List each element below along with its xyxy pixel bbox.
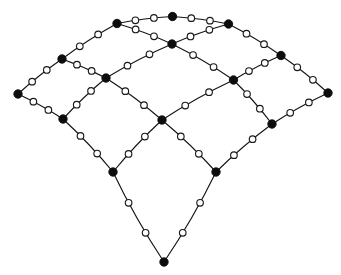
hollow-vertex [244,91,251,98]
hollow-vertex [231,152,238,159]
filled-vertex [277,51,285,59]
mesh-edge [63,78,106,119]
hollow-vertex [187,33,194,40]
filled-vertex [158,116,166,124]
mesh-edge [172,44,234,80]
hollow-vertex [151,15,158,22]
hollow-vertex [190,52,197,59]
filled-vertex [324,89,332,97]
mesh-edge [164,172,216,262]
hollow-vertex [249,136,256,143]
mesh-edge [106,78,162,120]
hollow-vertex [132,17,139,24]
mesh-edge [162,120,216,172]
hollow-vertex [77,133,84,140]
mesh-edge [162,80,234,120]
hollow-vertex [132,26,139,33]
hollow-vertex [210,64,217,71]
hollow-vertex [246,68,253,75]
filled-vertex [113,19,121,27]
hollow-vertex [74,61,81,68]
hollow-vertex [142,229,149,236]
hollow-vertex [29,78,36,85]
hollow-vertex [207,17,214,24]
hollow-vertex [294,64,301,71]
mesh-canvas [0,0,341,275]
filled-vertex [109,168,117,176]
hollow-vertex [125,199,132,206]
hollow-vertex [73,101,80,108]
hollow-vertex [196,151,203,158]
hollow-vertex [30,98,37,105]
filled-vertex [168,12,176,20]
filled-vertex [268,120,276,128]
hollow-vertex [88,68,95,75]
hollow-vertex [125,151,132,158]
filled-vertex [59,115,67,123]
hollow-vertex [124,62,131,69]
filled-vertex [224,20,232,28]
mesh-edge [117,17,173,24]
hollow-vertex [287,109,294,116]
hollow-vertex [94,150,101,157]
mesh-edge [173,17,229,25]
hollow-vertex [95,31,102,38]
filled-vertex [58,55,66,63]
mesh-edge [62,24,117,60]
hollow-vertex [182,102,189,109]
hollow-vertex [261,41,268,48]
hollow-vertex [146,51,153,58]
filled-vertex [160,258,168,266]
hollow-vertex [188,15,195,22]
filled-vertex [14,90,22,98]
hollow-vertex [206,89,213,96]
mesh-edge [63,119,113,172]
filled-node-layer [14,12,332,266]
hollow-vertex [261,60,268,67]
hollow-vertex [206,26,213,33]
hollow-vertex [141,102,148,109]
mesh-edge [229,24,282,56]
mesh-edge [18,59,62,94]
hollow-vertex [45,107,52,114]
mesh-edge [62,59,106,78]
hollow-vertex [243,30,250,37]
hollow-vertex [306,99,313,106]
mesh-edge [106,44,172,78]
mesh-edge [113,172,164,262]
hollow-vertex [151,33,158,40]
mesh-edge [113,120,162,172]
mesh-edge [18,94,63,119]
hollow-vertex [122,88,129,95]
hollow-vertex [179,230,186,237]
mesh-edge [172,24,229,44]
mesh-edge [281,56,328,94]
mesh-edge [216,124,272,172]
hollow-vertex [257,105,264,112]
mesh-figure [0,0,341,275]
hollow-vertex [142,133,149,140]
hollow-vertex [43,67,50,74]
filled-vertex [168,40,176,48]
hollow-vertex [178,133,185,140]
mesh-edge [117,24,172,45]
hollow-vertex [310,76,317,83]
filled-vertex [229,76,237,84]
mesh-edge [234,56,282,81]
mesh-edge [272,93,328,124]
mesh-edge [234,80,273,124]
hollow-vertex [76,43,83,50]
hollow-vertex [88,88,95,95]
filled-vertex [102,74,110,82]
hollow-vertex [197,200,204,207]
filled-vertex [212,168,220,176]
